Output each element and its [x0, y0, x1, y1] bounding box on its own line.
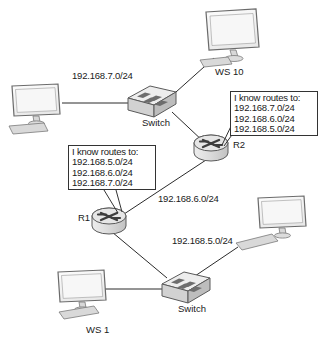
workstation-left [9, 84, 60, 134]
node-label-switch-bottom: Switch [178, 303, 206, 314]
workstation-right [236, 196, 306, 250]
monitor-icon [206, 9, 259, 62]
node-label-ws10: WS 10 [215, 66, 244, 77]
switch-top-icon [128, 86, 176, 117]
node-label-r1: R1 [78, 212, 90, 223]
workstation-ws1 [58, 270, 106, 319]
diagram-canvas [0, 0, 324, 349]
network-label-192-168-5-0: 192.168.5.0/24 [172, 235, 233, 246]
workstation-ws10 [200, 9, 259, 67]
node-label-switch-top: Switch [142, 117, 170, 128]
network-diagram: 192.168.7.0/24 192.168.6.0/24 192.168.5.… [0, 0, 324, 349]
switch-bottom-icon [162, 272, 210, 303]
node-label-r2: R2 [233, 139, 245, 150]
monitor-icon [58, 270, 106, 312]
keyboard-icon [9, 123, 48, 134]
network-label-192-168-7-0: 192.168.7.0/24 [72, 70, 133, 81]
monitor-icon [258, 196, 306, 238]
router-r2-icon [194, 135, 228, 161]
network-label-192-168-6-0: 192.168.6.0/24 [158, 193, 219, 204]
keyboard-icon [236, 234, 278, 250]
router-r1-icon [92, 208, 126, 234]
callout-r1-line-4: 192.168.7.0/24 [72, 178, 152, 188]
node-label-ws1: WS 1 [86, 324, 109, 335]
callout-r2-line-4: 192.168.5.0/24 [234, 124, 314, 134]
callout-box-r1: I know routes to: 192.168.5.0/24 192.168… [68, 145, 156, 190]
link-switchbottom-wsright [195, 247, 238, 276]
callout-box-r2: I know routes to: 192.168.7.0/24 192.168… [230, 91, 318, 136]
monitor-icon [12, 84, 60, 126]
link-r1-switchbottom [112, 232, 167, 278]
